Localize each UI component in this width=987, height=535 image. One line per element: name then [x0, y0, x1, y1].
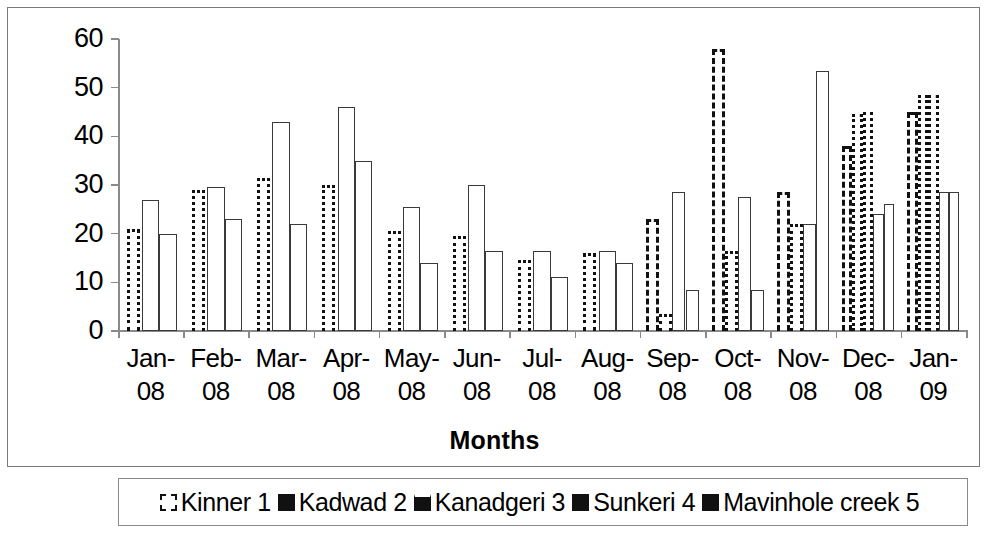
- x-axis-tick: [575, 330, 577, 338]
- y-axis-tick: [111, 282, 119, 284]
- bar-group: [248, 39, 313, 331]
- bar-kadwad-2: [852, 114, 862, 331]
- bar-sunkeri-4: [142, 200, 159, 331]
- bar-group: [444, 39, 509, 331]
- bar-kadwad-2: [192, 190, 205, 331]
- x-axis-category-label: Nov-08: [770, 342, 835, 408]
- bar-mavinhole-creek-5: [816, 71, 829, 331]
- plot-area: [118, 39, 966, 331]
- x-axis-tick: [509, 330, 511, 338]
- filled-swatch-icon: [702, 494, 719, 511]
- y-axis-tick: [111, 87, 119, 89]
- bar-group: [183, 39, 248, 331]
- bar-group: [509, 39, 574, 331]
- bar-kadwad-2: [518, 260, 531, 331]
- bar-mavinhole-creek-5: [290, 224, 307, 331]
- y-axis-labels: 6050403020100: [53, 8, 103, 468]
- bar-mavinhole-creek-5: [420, 263, 437, 331]
- x-axis-category-label: Mar-08: [248, 342, 313, 408]
- x-axis-category-label: Sep-08: [640, 342, 705, 408]
- x-axis-tick: [901, 330, 903, 338]
- x-axis-tick: [770, 330, 772, 338]
- bar-mavinhole-creek-5: [884, 204, 894, 331]
- bar-kadwad-2: [322, 185, 335, 331]
- bar-mavinhole-creek-5: [225, 219, 242, 331]
- filled-swatch-icon: [572, 494, 589, 511]
- x-axis-tick: [314, 330, 316, 338]
- x-axis-category-label: Oct-08: [705, 342, 770, 408]
- x-axis-category-label: Jan-09: [901, 342, 966, 408]
- filled-swatch-icon: [414, 494, 431, 511]
- bar-mavinhole-creek-5: [751, 290, 764, 331]
- bar-sunkeri-4: [403, 207, 420, 331]
- x-axis-category-label: Jan-08: [118, 342, 183, 408]
- legend-item[interactable]: Sunkeri 4: [572, 490, 702, 515]
- y-axis-tick: [111, 233, 119, 235]
- legend-item[interactable]: Kanadgeri 3: [414, 490, 572, 515]
- x-axis-tick: [248, 330, 250, 338]
- bar-mavinhole-creek-5: [949, 192, 959, 331]
- bar-sunkeri-4: [338, 107, 355, 331]
- bar-mavinhole-creek-5: [485, 251, 502, 331]
- legend-item[interactable]: Mavinhole creek 5: [702, 490, 926, 515]
- x-axis-tick: [836, 330, 838, 338]
- y-axis-tick-label: 20: [57, 220, 103, 247]
- x-axis-title: Months: [8, 426, 981, 455]
- bar-sunkeri-4: [738, 197, 751, 331]
- x-axis-category-label: May-08: [379, 342, 444, 408]
- bar-sunkeri-4: [939, 192, 949, 331]
- y-axis-tick-label: 50: [57, 74, 103, 101]
- bar-sunkeri-4: [803, 224, 816, 331]
- bar-kinner-1: [777, 192, 790, 331]
- legend-item-label: Kanadgeri 3: [435, 490, 572, 515]
- x-axis-tick: [640, 330, 642, 338]
- y-axis-tick: [111, 184, 119, 186]
- bar-kadwad-2: [583, 253, 596, 331]
- bar-sunkeri-4: [672, 192, 685, 331]
- legend-item[interactable]: Kinner 1: [160, 490, 278, 515]
- bar-group: [640, 39, 705, 331]
- x-axis-category-label: Apr-08: [314, 342, 379, 408]
- x-axis-labels: Jan-08Feb-08Mar-08Apr-08May-08Jun-08Jul-…: [118, 342, 966, 422]
- y-axis-tick-label: 60: [57, 25, 103, 52]
- legend-item-label: Kadwad 2: [299, 490, 414, 515]
- x-axis-category-label: Jun-08: [444, 342, 509, 408]
- bar-kinner-1: [907, 112, 917, 331]
- x-axis-tick: [379, 330, 381, 338]
- bar-sunkeri-4: [468, 185, 485, 331]
- bar-kadwad-2: [388, 231, 401, 331]
- y-axis-tick-label: 10: [57, 268, 103, 295]
- bar-sunkeri-4: [873, 214, 883, 331]
- bar-kinner-1: [646, 219, 659, 331]
- open-dashed-swatch-icon: [160, 494, 177, 511]
- bar-sunkeri-4: [272, 122, 289, 331]
- bar-kadwad-2: [790, 224, 803, 331]
- y-axis-tick: [111, 38, 119, 40]
- chart-page: 6050403020100 Jan-08Feb-08Mar-08Apr-08Ma…: [0, 0, 987, 535]
- bar-kinner-1: [842, 146, 852, 331]
- legend-item[interactable]: Kadwad 2: [278, 490, 414, 515]
- y-axis-tick-label: 30: [57, 171, 103, 198]
- bar-kanadgeri-3: [928, 95, 938, 331]
- bar-mavinhole-creek-5: [159, 234, 176, 331]
- chart-legend: Kinner 1Kadwad 2Kanadgeri 3Sunkeri 4Mavi…: [118, 478, 968, 526]
- bar-sunkeri-4: [599, 251, 616, 331]
- bar-kadwad-2: [659, 314, 672, 331]
- bar-group: [901, 39, 966, 331]
- legend-item-label: Mavinhole creek 5: [723, 490, 926, 515]
- x-axis-tick: [966, 330, 968, 338]
- y-axis-tick: [111, 136, 119, 138]
- x-axis-tick: [183, 330, 185, 338]
- chart-frame: 6050403020100 Jan-08Feb-08Mar-08Apr-08Ma…: [7, 7, 980, 467]
- bar-group: [836, 39, 901, 331]
- legend-item-label: Sunkeri 4: [593, 490, 702, 515]
- x-axis-category-label: Dec-08: [836, 342, 901, 408]
- bar-kadwad-2: [257, 178, 270, 331]
- bar-group: [575, 39, 640, 331]
- x-axis-category-label: Jul-08: [509, 342, 574, 408]
- bar-group: [705, 39, 770, 331]
- bar-kadwad-2: [453, 236, 466, 331]
- y-axis-tick-label: 0: [57, 317, 103, 344]
- bar-mavinhole-creek-5: [686, 290, 699, 331]
- bar-kanadgeri-3: [863, 112, 873, 331]
